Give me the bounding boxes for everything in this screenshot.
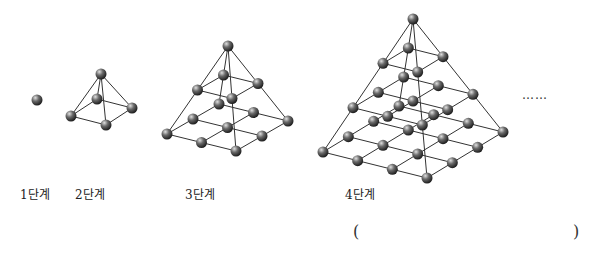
ball xyxy=(218,70,229,81)
ball xyxy=(231,146,242,157)
ball xyxy=(248,107,259,118)
ball xyxy=(422,173,433,184)
ball xyxy=(433,80,444,91)
stage-2-label: 2단계 xyxy=(75,185,105,202)
ball xyxy=(428,109,439,120)
ball xyxy=(408,14,419,25)
pyramid-figure xyxy=(0,0,599,256)
ball xyxy=(196,137,207,148)
ball xyxy=(343,131,354,142)
ball xyxy=(101,120,112,131)
ball xyxy=(387,164,398,175)
ball xyxy=(368,116,379,127)
answer-close-paren: ) xyxy=(573,222,579,241)
ball xyxy=(66,111,77,122)
ball xyxy=(222,122,233,133)
ball xyxy=(227,93,238,104)
ball xyxy=(468,89,479,100)
ball xyxy=(412,149,423,160)
ball xyxy=(463,118,474,129)
ball xyxy=(283,116,294,127)
ball xyxy=(394,101,405,112)
ball xyxy=(192,85,203,96)
ball xyxy=(96,69,107,80)
answer-blank[interactable] xyxy=(365,222,570,244)
stage-1-label: 1단계 xyxy=(20,185,50,202)
ball xyxy=(92,94,103,105)
ball xyxy=(417,120,428,131)
ball xyxy=(412,67,423,78)
ball xyxy=(348,102,359,113)
ball xyxy=(188,114,199,125)
ball xyxy=(162,129,173,140)
stage-3-label: 3단계 xyxy=(185,185,215,202)
ball xyxy=(253,78,264,89)
ball xyxy=(438,133,449,144)
ball xyxy=(378,140,389,151)
ball xyxy=(382,111,393,122)
ball xyxy=(442,104,453,115)
ball xyxy=(373,87,384,98)
ball xyxy=(32,95,43,106)
ball xyxy=(398,72,409,83)
ball xyxy=(318,147,329,158)
ball xyxy=(498,127,509,138)
ball xyxy=(472,142,483,153)
ball xyxy=(127,103,138,114)
continuation-ellipsis: …… xyxy=(522,88,548,102)
answer-open-paren: ( xyxy=(353,222,359,241)
ball xyxy=(352,155,363,166)
ball xyxy=(403,125,414,136)
ball xyxy=(223,41,234,52)
ball xyxy=(257,131,268,142)
ball xyxy=(438,51,449,62)
stage-4-label: 4단계 xyxy=(345,185,375,202)
ball xyxy=(214,99,225,110)
ball xyxy=(403,43,414,54)
ball xyxy=(408,96,419,107)
ball xyxy=(378,58,389,69)
ball xyxy=(447,157,458,168)
